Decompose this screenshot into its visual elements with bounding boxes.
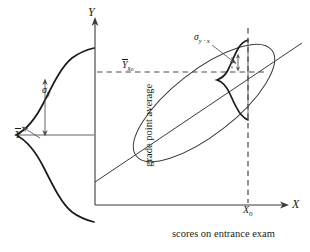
y-bar-conditional-subscript2: o xyxy=(131,66,134,72)
y-bar-conditional-label: Yxo xyxy=(122,60,134,73)
y-axis-title: grade point average xyxy=(144,50,155,200)
sigma-yx-leader-line xyxy=(212,45,234,62)
y-bar-symbol: Y xyxy=(15,129,21,140)
regression-diagram-figure: Y X grade point average scores on entran… xyxy=(0,0,310,252)
sigma-y-dot-x-label: σy · x xyxy=(194,33,210,45)
y-bar-conditional-symbol: Y xyxy=(122,60,128,70)
x-axis-label: X xyxy=(292,198,299,210)
sigma-y-subscript: y xyxy=(47,90,50,98)
y-bar-label: Y xyxy=(15,129,21,140)
sigma-y-dot-x-subscript: y · x xyxy=(199,37,210,44)
figure-canvas xyxy=(0,0,310,252)
marginal-distribution-y-group xyxy=(16,48,94,222)
axis-group xyxy=(92,17,289,208)
x-zero-subscript: o xyxy=(249,210,253,218)
x-axis-title: scores on entrance exam xyxy=(172,229,275,240)
sigma-y-label: σy xyxy=(42,85,50,98)
y-bar-leader-line xyxy=(24,128,40,138)
y-axis-label: Y xyxy=(88,6,95,18)
x-zero-label: Xo xyxy=(243,205,253,218)
conditional-distribution-group xyxy=(212,40,248,120)
